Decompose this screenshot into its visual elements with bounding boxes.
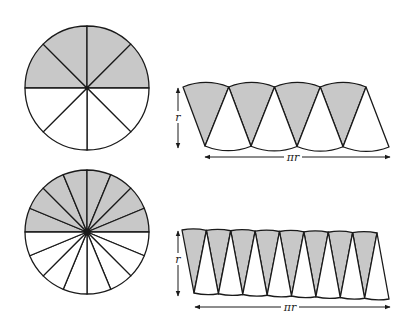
radius-label: r (175, 111, 181, 124)
half-circumference-label: πr (286, 151, 300, 164)
half-circumference-label: πr (283, 301, 297, 314)
panel-eight-sectors: r πr (25, 26, 390, 164)
radius-label: r (175, 253, 181, 266)
panel-sixteen-sectors: r πr (25, 170, 390, 314)
circle-area-rearrangement-diagram: r πr r πr (0, 0, 411, 330)
center-point (85, 86, 89, 90)
rearranged-strip-sixteen-sectors (182, 229, 389, 300)
rearranged-strip-eight-sectors (183, 83, 389, 152)
circle-eight-sectors (25, 26, 149, 150)
center-point (84, 229, 89, 234)
circle-sixteen-sectors (25, 170, 149, 294)
